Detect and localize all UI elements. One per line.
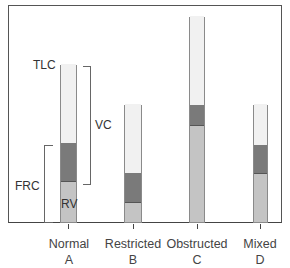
segment-ic xyxy=(61,64,76,143)
segment-ic xyxy=(190,16,204,105)
segment-ic xyxy=(254,104,267,145)
segment-rv xyxy=(190,126,204,222)
vc-bracket xyxy=(83,66,91,185)
segment-erv xyxy=(61,142,76,182)
segment-erv xyxy=(125,172,141,203)
segment-rv xyxy=(254,174,267,222)
tlc-label: TLC xyxy=(33,58,56,72)
segment-ic xyxy=(125,104,141,173)
bar-restricted xyxy=(124,105,142,223)
x-tick xyxy=(133,224,134,229)
bar-obstructed xyxy=(189,17,205,223)
segment-rv xyxy=(125,203,141,222)
xlabel-mixed: Mixed D xyxy=(220,236,290,268)
xlabel-mixed-name: Mixed xyxy=(220,236,290,252)
x-tick xyxy=(260,224,261,229)
xlabel-mixed-letter: D xyxy=(220,252,290,268)
frc-label: FRC xyxy=(15,179,40,193)
segment-erv xyxy=(190,104,204,126)
vc-label: VC xyxy=(95,118,112,132)
frc-bracket xyxy=(44,145,53,223)
segment-erv xyxy=(254,144,267,174)
bar-mixed xyxy=(253,105,268,223)
x-tick xyxy=(197,224,198,229)
x-tick xyxy=(68,224,69,229)
rv-label: RV xyxy=(61,197,77,211)
